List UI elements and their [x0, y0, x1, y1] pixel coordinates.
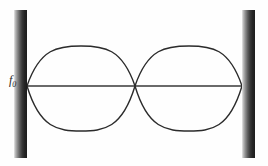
wave-lower-envelope-curve	[27, 86, 242, 131]
standing-wave-figure: f0	[0, 0, 268, 166]
fundamental-frequency-label: f0	[9, 74, 16, 89]
right-fixed-wall	[242, 10, 255, 158]
wave-diagram-svg	[0, 0, 268, 166]
wave-upper-envelope-curve	[27, 46, 242, 86]
frequency-subscript: 0	[12, 80, 16, 89]
right-wall-gradient	[242, 10, 255, 158]
